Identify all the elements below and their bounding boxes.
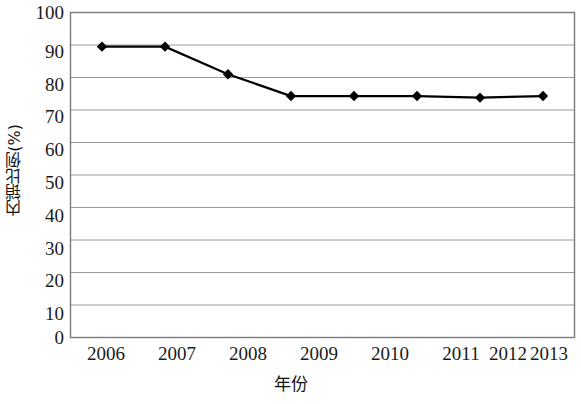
data-point-marker [97, 41, 107, 51]
data-point-marker [475, 92, 485, 102]
data-line-series-0 [102, 47, 543, 98]
x-axis-title: 年份 [0, 370, 581, 395]
data-point-marker [160, 41, 170, 51]
data-point-marker [412, 91, 422, 101]
chart-container: 内销比例(%) 100 90 80 70 60 50 40 30 20 10 0… [0, 0, 581, 404]
plot-area [0, 0, 581, 404]
data-markers [97, 41, 548, 102]
data-point-marker [286, 91, 296, 101]
data-point-marker [349, 91, 359, 101]
gridlines [71, 45, 575, 305]
data-point-marker [538, 91, 548, 101]
x-axis-title-label: 年份 [274, 374, 308, 394]
